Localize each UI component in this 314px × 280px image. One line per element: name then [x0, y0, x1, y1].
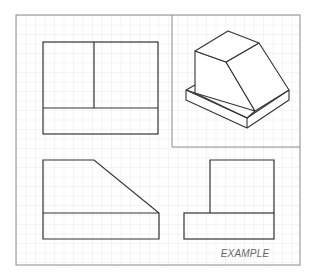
drawing-canvas: [0, 0, 314, 280]
example-caption: EXAMPLE: [205, 248, 285, 259]
